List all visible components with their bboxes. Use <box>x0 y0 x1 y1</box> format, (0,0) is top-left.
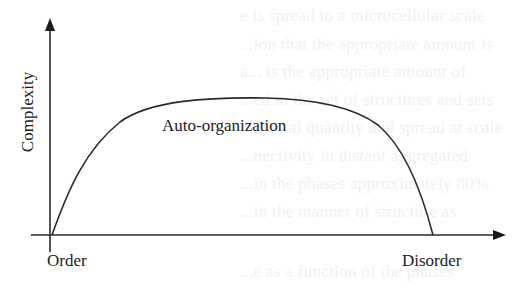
curve-label: Auto-organization <box>162 117 286 134</box>
complexity-diagram <box>0 0 519 291</box>
x-axis-arrowhead-icon <box>493 230 506 240</box>
y-axis-label: Complexity <box>19 72 36 152</box>
y-axis-arrowhead-icon <box>45 18 55 31</box>
x-axis-start-label: Order <box>47 252 87 269</box>
x-axis-end-label: Disorder <box>402 252 461 269</box>
